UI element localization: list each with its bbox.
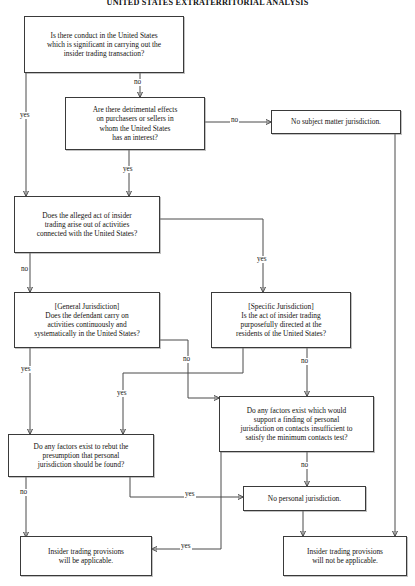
node-arise[interactable]: Does the alleged act of insider trading … bbox=[14, 196, 160, 253]
node-specific-jurisdiction[interactable]: [Specific Jurisdiction] Is the act of in… bbox=[211, 292, 351, 348]
edge-label-arise-yes: yes bbox=[256, 256, 268, 263]
edge-label-general-no: no bbox=[182, 356, 191, 363]
node-conduct-label: Is there conduct in the United States wh… bbox=[47, 31, 161, 58]
edge-label-rebut-no: no bbox=[19, 489, 28, 496]
node-no-subject-matter-jurisdiction[interactable]: No subject matter jurisdiction. bbox=[271, 110, 401, 134]
edge-label-effects-no: no bbox=[230, 117, 239, 124]
node-no-personal-jurisdiction-label: No personal jurisdiction. bbox=[268, 494, 341, 503]
node-specific-jurisdiction-label: [Specific Jurisdiction] Is the act of in… bbox=[236, 302, 326, 338]
node-effects[interactable]: Are there detrimental effects on purchas… bbox=[65, 97, 205, 150]
node-effects-label: Are there detrimental effects on purchas… bbox=[93, 105, 178, 141]
node-provisions-applicable-label: Insider trading provisions will be appli… bbox=[48, 547, 124, 565]
node-rebut-presumption-label: Do any factors exist to rebut the presum… bbox=[34, 442, 129, 469]
node-provisions-not-applicable-label: Insider trading provisions will not be a… bbox=[307, 547, 383, 565]
edge-label-factors-no: no bbox=[300, 462, 309, 469]
edge-label-specific-yes: yes bbox=[116, 390, 128, 397]
node-general-jurisdiction-label: [General Jurisdiction] Does the defendan… bbox=[34, 302, 140, 338]
edge-label-arise-no: no bbox=[20, 266, 29, 273]
edge-label-conduct-no: no bbox=[133, 79, 142, 86]
node-supporting-factors-label: Do any factors exist which would support… bbox=[241, 406, 353, 442]
edge-label-effects-yes: yes bbox=[122, 166, 134, 173]
node-provisions-applicable[interactable]: Insider trading provisions will be appli… bbox=[20, 536, 152, 576]
node-supporting-factors[interactable]: Do any factors exist which would support… bbox=[219, 396, 374, 452]
edge-label-general-yes: yes bbox=[20, 366, 32, 373]
flowchart-canvas: UNITED STATES EXTRATERRITORIAL ANALYSIS bbox=[0, 0, 415, 586]
edge-label-specific-no: no bbox=[300, 358, 309, 365]
edge-label-factors-yes: yes bbox=[180, 543, 192, 550]
node-no-personal-jurisdiction[interactable]: No personal jurisdiction. bbox=[243, 486, 366, 511]
edge-label-rebut-yes: yes bbox=[184, 491, 196, 498]
node-rebut-presumption[interactable]: Do any factors exist to rebut the presum… bbox=[8, 434, 154, 477]
edge-label-conduct-yes: yes bbox=[19, 112, 31, 119]
node-general-jurisdiction[interactable]: [General Jurisdiction] Does the defendan… bbox=[14, 292, 160, 348]
node-provisions-not-applicable[interactable]: Insider trading provisions will not be a… bbox=[283, 536, 407, 576]
node-arise-label: Does the alleged act of insider trading … bbox=[37, 211, 138, 238]
node-no-subject-matter-jurisdiction-label: No subject matter jurisdiction. bbox=[291, 117, 381, 126]
node-conduct[interactable]: Is there conduct in the United States wh… bbox=[24, 16, 184, 73]
